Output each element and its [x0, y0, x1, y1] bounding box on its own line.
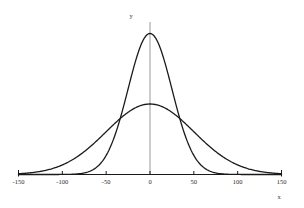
chart-canvas: -150-100-50050100150 y x — [0, 0, 304, 208]
x-tick-label: 100 — [233, 178, 243, 185]
normal-distribution-plot: -150-100-50050100150 y x — [0, 0, 304, 208]
x-tick-label: -150 — [13, 178, 25, 185]
x-tick-label: 50 — [191, 178, 198, 185]
x-tick-label: -100 — [56, 178, 68, 185]
x-tick-label: -50 — [102, 178, 111, 185]
x-tick-label: 150 — [277, 178, 287, 185]
x-tick-label: 0 — [148, 178, 151, 185]
